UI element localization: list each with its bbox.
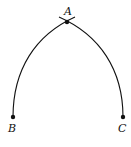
- arc-c-to-a: [59, 17, 123, 117]
- point-c: [121, 115, 125, 119]
- point-a: [65, 20, 69, 24]
- point-b: [11, 115, 15, 119]
- label-b: B: [7, 122, 16, 135]
- arc-b-to-a: [13, 17, 75, 117]
- construction-diagram: A B C: [0, 0, 131, 147]
- label-a: A: [63, 5, 72, 18]
- label-c: C: [118, 122, 127, 135]
